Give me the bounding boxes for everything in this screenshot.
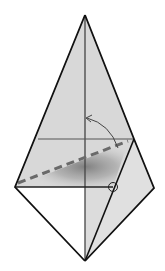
origami-diagram (0, 0, 165, 271)
diagram-canvas (0, 0, 165, 271)
